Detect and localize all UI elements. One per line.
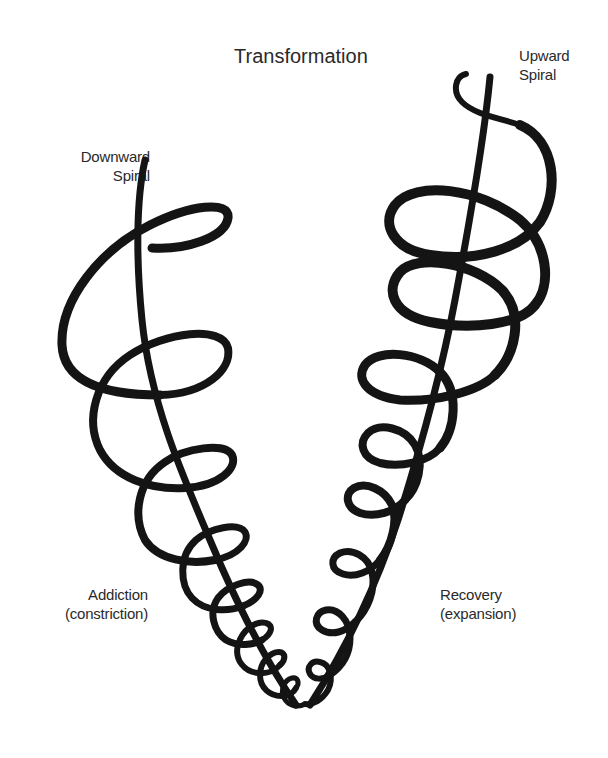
spiral-diagram <box>0 0 608 758</box>
downward-spiral-loop-1 <box>62 207 228 395</box>
upward-spiral-loop-5 <box>348 486 405 560</box>
upward-spiral-loop-3 <box>362 354 495 448</box>
upward-spiral <box>305 74 552 705</box>
downward-spiral <box>62 160 305 706</box>
downward-spiral-loop-3 <box>138 448 233 562</box>
